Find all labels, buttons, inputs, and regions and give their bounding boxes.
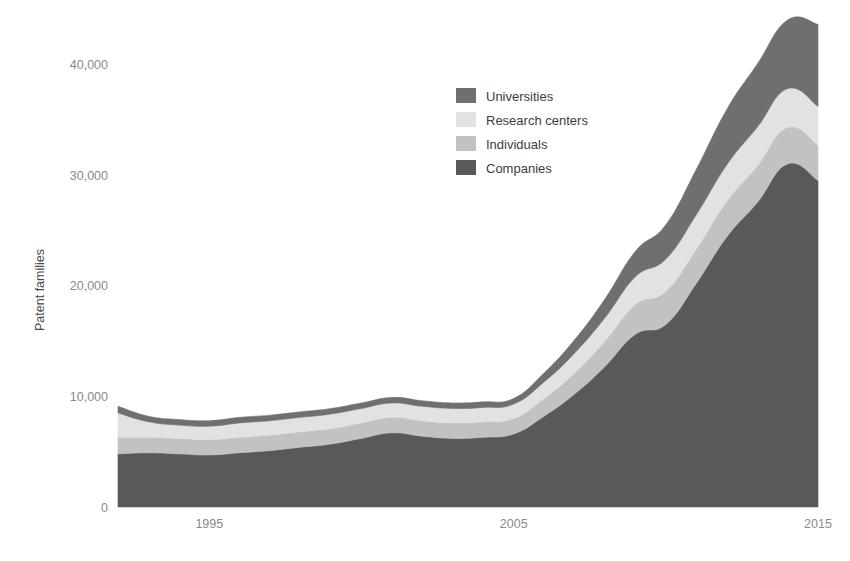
chart-figure: 010,00020,00030,00040,000 199520052015 P… [0, 0, 850, 561]
x-tick-label-2005: 2005 [500, 517, 528, 531]
legend-label-universities: Universities [486, 89, 554, 104]
stacked-area-chart: 010,00020,00030,00040,000 199520052015 P… [0, 0, 850, 561]
x-tick-label-1995: 1995 [195, 517, 223, 531]
legend-swatch-universities [456, 88, 476, 103]
y-tick-label-30000: 30,000 [70, 169, 108, 183]
y-tick-label-10000: 10,000 [70, 390, 108, 404]
y-tick-label-20000: 20,000 [70, 279, 108, 293]
legend-label-individuals: Individuals [486, 137, 548, 152]
legend-label-research-centers: Research centers [486, 113, 588, 128]
legend-swatch-companies [456, 160, 476, 175]
caption-strip [0, 543, 850, 561]
y-tick-label-40000: 40,000 [70, 58, 108, 72]
legend-swatch-research-centers [456, 112, 476, 127]
y-axis-title: Patent families [33, 249, 47, 331]
x-tick-label-2015: 2015 [804, 517, 832, 531]
y-tick-label-0: 0 [101, 501, 108, 515]
legend-swatch-individuals [456, 136, 476, 151]
legend-label-companies: Companies [486, 161, 552, 176]
